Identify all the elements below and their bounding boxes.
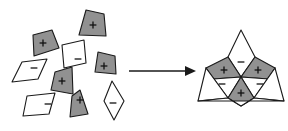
scattered-tile-tile-6[interactable] — [51, 67, 73, 94]
tile-polygon — [95, 52, 116, 74]
scattered-tile-tile-3[interactable] — [62, 40, 86, 68]
arrow-head-icon — [185, 66, 196, 76]
tile-polygon — [62, 40, 86, 68]
tiling-assembly-figure — [0, 0, 288, 131]
scattered-tile-tile-1[interactable] — [79, 10, 106, 36]
scattered-tile-tile-9[interactable] — [104, 81, 124, 120]
scattered-tiles-group — [12, 10, 124, 120]
figure-canvas — [0, 0, 288, 131]
tile-polygon — [12, 59, 47, 82]
scattered-tile-tile-2[interactable] — [33, 30, 59, 56]
scattered-tile-tile-5[interactable] — [12, 59, 47, 82]
assembled-rosette-group — [198, 30, 284, 106]
transformation-arrow — [129, 66, 196, 76]
tile-polygon — [104, 81, 124, 120]
scattered-tile-tile-7[interactable] — [23, 93, 55, 116]
scattered-tile-tile-4[interactable] — [95, 52, 116, 74]
